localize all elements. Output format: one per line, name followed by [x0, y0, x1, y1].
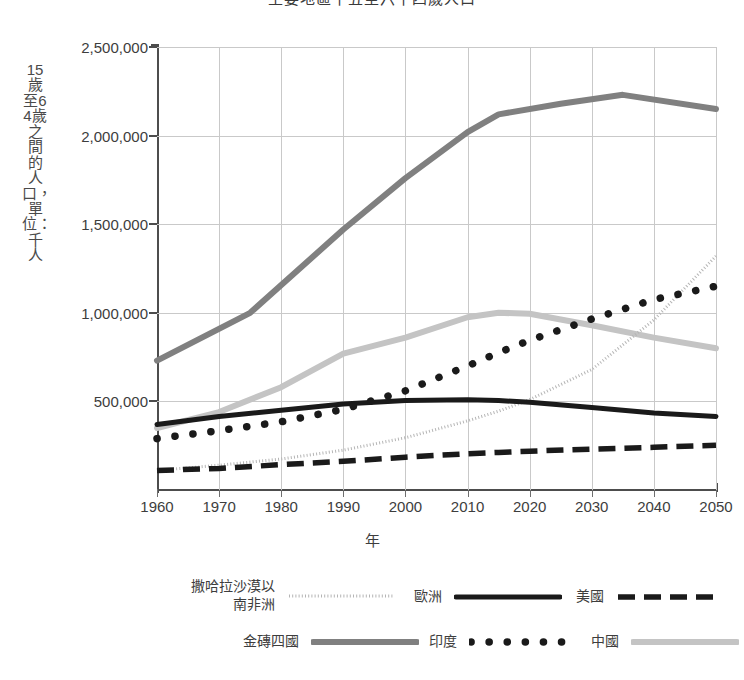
x-axis-tick — [157, 489, 158, 497]
x-axis-tick-label: 1980 — [265, 498, 298, 515]
x-axis-tick-label: 2020 — [513, 498, 546, 515]
legend-item[interactable]: 中國 — [573, 633, 739, 651]
legend-item-swatch — [631, 635, 739, 649]
x-axis-tick-label: 2000 — [389, 498, 422, 515]
chart-legend: 撒哈拉沙漠以南非洲歐洲美國金磚四國印度中國 — [0, 570, 744, 675]
legend-item-swatch — [287, 589, 395, 603]
legend-item-swatch — [454, 590, 562, 604]
y-axis-tick-label: 500,000 — [94, 393, 148, 410]
x-axis-tick — [405, 489, 406, 497]
x-axis-tick — [219, 489, 220, 497]
x-axis-tick-label: 1960 — [140, 498, 173, 515]
series-layer — [157, 47, 716, 490]
x-axis-tick-label: 1970 — [202, 498, 235, 515]
y-axis-tick-label: 2,500,000 — [81, 39, 148, 56]
chart-container: 主要地區十五至六十四歲人口 15歲至64歲之間的人口，單位：千人 500,000… — [0, 0, 744, 680]
legend-item[interactable]: 美國 — [558, 588, 724, 606]
x-axis-tick-label: 1990 — [327, 498, 360, 515]
legend-item[interactable]: 歐洲 — [396, 588, 562, 606]
x-axis-tick — [592, 489, 593, 497]
series-line — [157, 95, 716, 361]
x-axis-tick — [343, 489, 344, 497]
x-axis-tick — [716, 489, 717, 497]
x-axis-tick — [468, 489, 469, 497]
x-axis-tick — [654, 489, 655, 497]
y-axis-tick-label: 1,000,000 — [81, 304, 148, 321]
legend-item-label: 撒哈拉沙漠以南非洲 — [183, 578, 275, 613]
legend-item-label: 中國 — [573, 633, 619, 651]
legend-item-swatch — [616, 590, 724, 604]
x-axis-tick-label: 2010 — [451, 498, 484, 515]
series-line — [157, 256, 716, 470]
x-axis-tick-label: 2040 — [637, 498, 670, 515]
legend-item[interactable]: 印度 — [411, 633, 577, 651]
x-axis-tick — [281, 489, 282, 497]
legend-item-swatch — [311, 635, 419, 649]
x-axis-title: 年 — [0, 529, 744, 550]
plot-area — [157, 47, 716, 490]
y-axis-title: 15歲至64歲之間的人口，單位：千人 — [22, 62, 48, 263]
legend-item-label: 美國 — [558, 588, 604, 606]
legend-item-label: 金磚四國 — [229, 633, 299, 651]
x-axis-tick — [530, 489, 531, 497]
legend-item-label: 印度 — [411, 633, 457, 651]
legend-item[interactable]: 金磚四國 — [229, 633, 419, 651]
x-axis-tick-label: 2050 — [699, 498, 732, 515]
chart-title: 主要地區十五至六十四歲人口 — [0, 0, 744, 8]
legend-item-label: 歐洲 — [396, 588, 442, 606]
gridline-vertical — [716, 47, 717, 490]
y-axis-tick-label: 2,000,000 — [81, 127, 148, 144]
legend-item-swatch — [469, 635, 577, 649]
legend-item[interactable]: 撒哈拉沙漠以南非洲 — [183, 578, 395, 613]
y-axis-tick-label: 1,500,000 — [81, 216, 148, 233]
series-line — [157, 445, 716, 470]
x-axis-tick-label: 2030 — [575, 498, 608, 515]
